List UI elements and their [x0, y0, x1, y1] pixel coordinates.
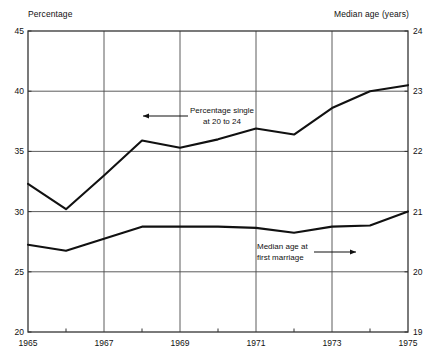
x-tick-label: 1975 [388, 338, 428, 348]
x-tick-label: 1971 [236, 338, 276, 348]
axis-ticks [28, 31, 408, 332]
right-tick-label: 22 [413, 146, 435, 156]
right-tick-label: 23 [413, 86, 435, 96]
annotation-percentage-single: Percentage single at 20 to 24 [190, 106, 254, 127]
annotation-median-age-line1: Median age at [257, 242, 308, 253]
left-tick-label: 40 [2, 86, 24, 96]
annotation-percentage-single-line2: at 20 to 24 [190, 117, 254, 128]
left-tick-label: 45 [2, 26, 24, 36]
annotation-arrows [143, 113, 356, 254]
left-tick-label: 35 [2, 146, 24, 156]
x-tick-label: 1973 [312, 338, 352, 348]
plot-area [0, 0, 436, 354]
x-tick-label: 1967 [84, 338, 124, 348]
annotation-median-age: Median age at first marriage [257, 242, 308, 263]
annotation-percentage-single-line1: Percentage single [190, 106, 254, 117]
x-tick-label: 1965 [8, 338, 48, 348]
right-tick-label: 21 [413, 207, 435, 217]
left-tick-label: 30 [2, 207, 24, 217]
x-tick-label: 1969 [160, 338, 200, 348]
plot-frame [28, 31, 408, 332]
left-tick-label: 25 [2, 267, 24, 277]
gridlines [28, 31, 408, 332]
left-tick-label: 20 [2, 327, 24, 337]
chart-container: Percentage Median age (years) 2025303540… [0, 0, 436, 354]
right-tick-label: 24 [413, 26, 435, 36]
right-tick-label: 20 [413, 267, 435, 277]
annotation-median-age-line2: first marriage [257, 253, 308, 264]
right-tick-label: 19 [413, 327, 435, 337]
